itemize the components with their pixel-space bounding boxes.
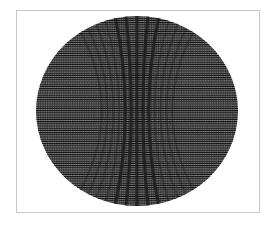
moire-lines [36,16,238,206]
moire-disc [0,0,279,226]
